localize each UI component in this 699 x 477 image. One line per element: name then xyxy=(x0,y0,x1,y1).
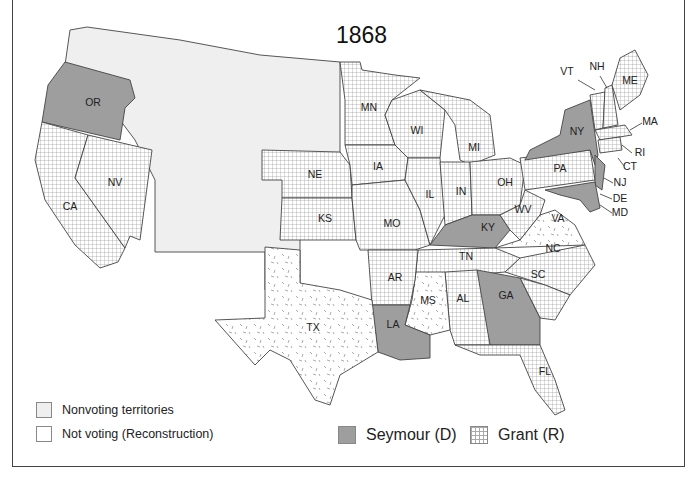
label-CA: CA xyxy=(63,200,78,212)
label-PA: PA xyxy=(553,162,566,174)
seymour-swatch xyxy=(338,426,356,444)
label-KY: KY xyxy=(481,221,495,233)
label-MD: MD xyxy=(612,206,629,218)
label-LA: LA xyxy=(387,318,400,330)
label-NJ: NJ xyxy=(614,176,627,188)
legend-not-voting: Not voting (Reconstruction) xyxy=(36,426,213,442)
label-MI: MI xyxy=(468,141,480,153)
label-FL: FL xyxy=(539,365,551,377)
label-MO: MO xyxy=(384,217,401,229)
legend-seymour: Seymour (D) xyxy=(338,426,457,444)
label-NH: NH xyxy=(589,60,604,72)
label-OR: OR xyxy=(85,96,101,108)
label-RI: RI xyxy=(635,146,646,158)
label-VA: VA xyxy=(551,212,564,224)
label-NE: NE xyxy=(308,168,323,180)
legend-grant: Grant (R) xyxy=(470,426,565,444)
label-TX: TX xyxy=(306,321,319,333)
not-voting-swatch xyxy=(36,426,52,442)
label-IN: IN xyxy=(456,185,467,197)
label-NY: NY xyxy=(570,125,585,137)
state-NJ xyxy=(595,155,605,190)
state-CT xyxy=(598,137,622,153)
state-FL xyxy=(455,345,565,415)
label-VT: VT xyxy=(560,65,574,77)
label-WI: WI xyxy=(411,124,424,136)
label-GA: GA xyxy=(498,289,513,301)
label-SC: SC xyxy=(531,268,546,280)
label-AL: AL xyxy=(457,292,470,304)
label-DE: DE xyxy=(613,192,628,204)
label-NV: NV xyxy=(108,176,123,188)
nonvoting-swatch xyxy=(36,402,52,418)
label-TN: TN xyxy=(459,250,473,262)
legend-nonvoting: Nonvoting territories xyxy=(36,402,174,418)
label-KS: KS xyxy=(318,212,332,224)
map-title: 1868 xyxy=(336,22,387,49)
label-MN: MN xyxy=(361,101,377,113)
label-NC: NC xyxy=(545,242,561,254)
label-OH: OH xyxy=(497,176,513,188)
label-MS: MS xyxy=(420,294,436,306)
label-IL: IL xyxy=(426,188,435,200)
legend-not-voting-label: Not voting (Reconstruction) xyxy=(62,427,213,441)
label-AR: AR xyxy=(388,271,403,283)
label-IA: IA xyxy=(373,160,383,172)
state-TX xyxy=(215,247,378,405)
state-MD xyxy=(545,182,600,212)
legend-nonvoting-label: Nonvoting territories xyxy=(62,403,174,417)
label-ME: ME xyxy=(622,74,638,86)
label-MA: MA xyxy=(642,115,658,127)
grant-swatch xyxy=(470,426,488,444)
label-CT: CT xyxy=(623,160,638,172)
legend-grant-label: Grant (R) xyxy=(498,426,565,444)
label-WV: WV xyxy=(515,203,532,215)
legend-seymour-label: Seymour (D) xyxy=(366,426,457,444)
